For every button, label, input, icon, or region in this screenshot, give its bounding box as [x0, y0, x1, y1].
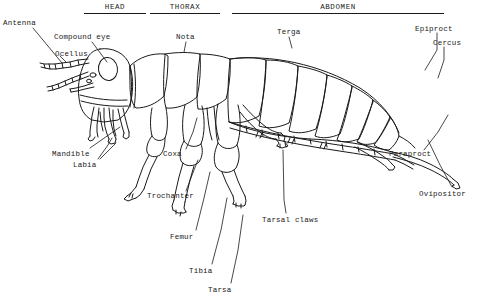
label-coxa: Coxa — [163, 150, 182, 159]
section-label-thorax: THORAX — [150, 3, 220, 11]
label-cercus: Cercus — [433, 39, 461, 48]
label-ocellus: Ocellus — [55, 50, 88, 59]
label-mandible: Mandible — [52, 150, 90, 159]
label-antenna: Antenna — [3, 19, 36, 28]
label-trochanter: Trochanter — [147, 192, 194, 201]
label-ovipositor: Ovipositor — [419, 190, 466, 199]
section-rule-abdomen — [232, 13, 444, 14]
label-tibia: Tibia — [189, 267, 213, 276]
far-midleg-shape — [207, 107, 219, 140]
ocellus-shape — [87, 73, 96, 83]
label-compound-eye: Compound eye — [54, 33, 110, 42]
label-labia: Labia — [73, 161, 97, 170]
figure-canvas: HEAD THORAX ABDOMEN Antenna Ocellus Comp… — [0, 0, 485, 299]
section-rule-thorax — [150, 13, 220, 14]
maxillary-palp-shape — [70, 83, 94, 92]
label-tarsa: Tarsa — [208, 286, 232, 295]
thorax-nota — [130, 53, 230, 110]
foreleg-shape — [124, 108, 167, 201]
label-tarsal-claws: Tarsal claws — [262, 216, 318, 225]
label-paraproct: Paraproct — [389, 150, 431, 159]
label-epiproct: Epiproct — [415, 25, 453, 34]
section-label-abdomen: ABDOMEN — [232, 3, 444, 11]
section-label-head: HEAD — [84, 3, 146, 11]
label-terga: Terga — [277, 28, 301, 37]
hindleg-shape — [214, 104, 246, 208]
mouthparts-shape — [88, 107, 129, 144]
label-nota: Nota — [176, 33, 195, 42]
compound-eye-shape — [97, 56, 119, 81]
label-femur: Femur — [170, 233, 194, 242]
epiproct-shape — [399, 136, 415, 148]
abdomen-terga — [228, 58, 399, 152]
section-rule-head — [84, 13, 146, 14]
